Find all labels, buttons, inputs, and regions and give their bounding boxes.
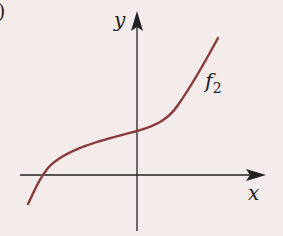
curve-f2 [28,38,218,204]
x-axis-label: x [248,181,259,205]
curve-label: f2 [203,69,222,96]
function-graph: ) y x f2 [0,0,283,236]
part-marker: ) [0,0,5,22]
y-axis-label: y [113,8,126,32]
